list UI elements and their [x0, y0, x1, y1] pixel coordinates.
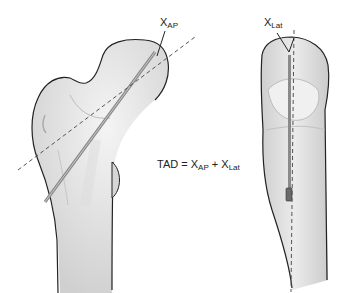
x-lat-label: XLat — [264, 16, 282, 30]
x-ap-label: XAP — [160, 16, 178, 30]
lateral-femur — [261, 30, 329, 292]
tad-formula: TAD = XAP + XLat — [157, 158, 240, 172]
femur-illustration — [0, 0, 349, 293]
lateral-lag-screw — [288, 55, 291, 190]
tip-apex-distance-diagram: XAP XLat TAD = XAP + XLat — [0, 0, 349, 293]
